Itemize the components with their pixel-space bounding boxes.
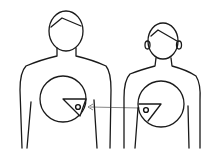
illustration: Line drawing of two upper-body figures; … [0,0,216,161]
diagram-canvas [0,0,216,161]
right-chest-tissue-circle [138,81,184,127]
left-target-ring-icon [76,105,81,110]
right-target-ring-icon [144,108,149,113]
right-inner-arm-right [188,106,189,148]
transfer-arrow [88,104,140,110]
left-inner-arm-left [27,102,31,148]
right-hairline-icon [151,30,177,41]
right-shoulder-right [171,58,200,148]
left-shoulder-right [76,48,111,148]
right-head-icon [148,23,178,59]
left-hairline-icon [51,18,81,27]
right-figure [124,23,200,148]
left-chest-tissue-circle [40,76,86,122]
right-shoulder-left [124,58,156,148]
right-inner-arm-left [135,108,138,148]
left-figure [20,11,111,148]
left-shoulder-left [20,48,57,148]
left-head-icon [49,11,83,51]
